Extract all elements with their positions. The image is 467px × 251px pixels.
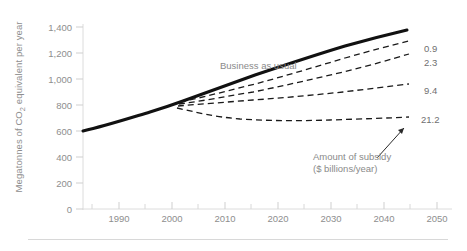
- amount-of-subsidy-annotation: Amount of subsidy ($ billions/year): [313, 151, 391, 175]
- series-line-subsidy-2-3: [180, 41, 409, 102]
- series-line-business-as-usual: [83, 30, 407, 131]
- end-label-2-3: 2.3: [424, 57, 437, 68]
- bottom-divider: [28, 239, 448, 240]
- end-label-0-9: 0.9: [424, 43, 437, 54]
- x-axis-major-ticks: [119, 202, 437, 209]
- x-tick-2050: 2050: [417, 213, 457, 224]
- x-axis-minor-ticks: [92, 204, 410, 209]
- x-tick-2030: 2030: [311, 213, 351, 224]
- x-tick-2040: 2040: [364, 213, 404, 224]
- y-axis-ticks: [76, 27, 83, 209]
- x-tick-2010: 2010: [205, 213, 245, 224]
- chart-figure: Megatonnes of CO2 equivalent per year 1,…: [0, 0, 467, 251]
- amount-of-subsidy-line1: Amount of subsidy: [313, 151, 391, 163]
- business-as-usual-label: Business as usual: [220, 60, 297, 71]
- x-tick-2020: 2020: [258, 213, 298, 224]
- x-tick-1990: 1990: [99, 213, 139, 224]
- series-line-subsidy-21-2: [177, 108, 409, 121]
- end-label-21-2: 21.2: [421, 114, 440, 125]
- x-tick-2000: 2000: [152, 213, 192, 224]
- end-label-9-4: 9.4: [424, 85, 437, 96]
- amount-of-subsidy-line2: ($ billions/year): [313, 163, 391, 175]
